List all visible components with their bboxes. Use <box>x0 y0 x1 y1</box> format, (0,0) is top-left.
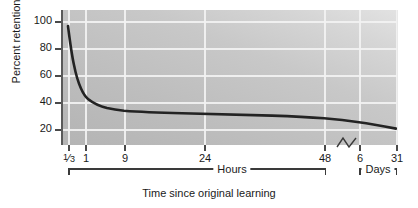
y-tick-label-80: 80 <box>22 42 52 53</box>
plot-right-edge <box>397 10 398 145</box>
x-tick-label-9: 9 <box>122 152 128 164</box>
y-tick-label-20: 20 <box>22 123 52 134</box>
y-tick-label-60: 60 <box>22 69 52 80</box>
hours-bracket-label: Hours <box>213 164 250 175</box>
days-bracket-left-cap <box>359 168 361 175</box>
y-axis-title: Percent retention <box>11 0 22 102</box>
x-tick-label-31: 31 <box>391 152 403 164</box>
y-tick-label-100: 100 <box>22 15 52 26</box>
retention-curve <box>62 10 398 145</box>
days-bracket-right-cap <box>396 168 398 175</box>
y-axis-line <box>61 10 63 145</box>
x-tick-label-6: 6 <box>357 152 363 164</box>
y-tick-60 <box>55 75 61 77</box>
x-tick-31d <box>396 145 398 151</box>
y-tick-80 <box>55 48 61 50</box>
hours-bracket-bar <box>68 168 326 170</box>
x-tick-6d <box>359 145 361 151</box>
plot-area <box>62 10 398 145</box>
y-tick-20 <box>55 129 61 131</box>
hours-bracket-left-cap <box>68 168 70 175</box>
x-tick-1 <box>85 145 87 151</box>
y-tick-label-40: 40 <box>22 96 52 107</box>
x-tick-48 <box>324 145 326 151</box>
y-tick-40 <box>55 102 61 104</box>
fraction-denominator: 3 <box>70 154 75 164</box>
x-tick-9 <box>124 145 126 151</box>
fraction-one-third: 1⁄3 <box>63 153 75 164</box>
x-axis-title: Time since original learning <box>0 188 418 199</box>
fraction-numerator: 1 <box>63 152 68 162</box>
x-tick-1-3 <box>68 145 70 151</box>
hours-bracket <box>68 168 326 175</box>
days-bracket-label: Days <box>361 164 394 175</box>
y-tick-100 <box>55 21 61 23</box>
x-tick-label-1-3: 1⁄3 <box>63 152 75 164</box>
x-tick-label-24: 24 <box>199 152 211 164</box>
hours-bracket-right-cap <box>325 168 327 175</box>
x-tick-label-48: 48 <box>319 152 331 164</box>
x-tick-label-1: 1 <box>83 152 89 164</box>
forgetting-curve-chart: 100 80 60 40 20 Percent retention 1⁄3 1 … <box>0 0 418 208</box>
axis-break-icon <box>336 136 358 148</box>
x-tick-24 <box>204 145 206 151</box>
